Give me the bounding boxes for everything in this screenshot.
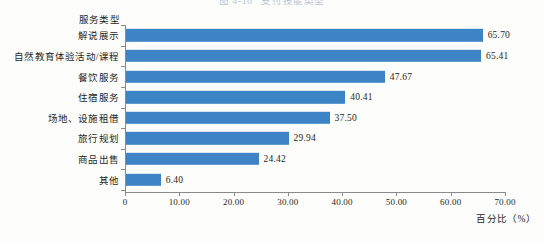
bar bbox=[126, 112, 330, 124]
bar-value-label: 65.70 bbox=[488, 30, 510, 40]
y-axis-tick bbox=[121, 169, 125, 170]
bar-value-label: 40.41 bbox=[350, 92, 372, 102]
bar-row: 住宿服务40.41 bbox=[125, 87, 505, 108]
category-label: 旅行规划 bbox=[78, 131, 119, 145]
bar-row: 旅行规划29.94 bbox=[125, 128, 505, 149]
x-axis-tick-label: 70.00 bbox=[494, 197, 515, 207]
bar bbox=[126, 91, 345, 103]
x-axis-tick-label: 30.00 bbox=[277, 197, 298, 207]
y-axis-tick bbox=[121, 25, 125, 26]
y-axis-tick bbox=[121, 108, 125, 109]
x-axis-tick bbox=[451, 192, 452, 196]
bar-row: 解说展示65.70 bbox=[125, 25, 505, 46]
x-axis-tick bbox=[234, 192, 235, 196]
y-axis-tick bbox=[121, 128, 125, 129]
x-axis-tick bbox=[288, 192, 289, 196]
bar-value-label: 24.42 bbox=[264, 154, 286, 164]
bar-row: 商品出售24.42 bbox=[125, 149, 505, 170]
bar-value-label: 29.94 bbox=[294, 133, 316, 143]
x-axis-tick-label: 0 bbox=[123, 197, 128, 207]
bar bbox=[126, 173, 161, 185]
x-axis-tick bbox=[396, 192, 397, 196]
bar bbox=[126, 132, 289, 144]
y-axis-tick bbox=[121, 87, 125, 88]
y-axis-label: 服务类型 bbox=[0, 12, 120, 26]
bar-row: 场地、设施租借37.50 bbox=[125, 108, 505, 129]
bar bbox=[126, 153, 259, 165]
bar-value-label: 6.40 bbox=[166, 175, 183, 185]
x-axis-tick bbox=[342, 192, 343, 196]
x-axis-tick-label: 20.00 bbox=[223, 197, 244, 207]
x-axis-tick bbox=[125, 192, 126, 196]
bar bbox=[126, 50, 481, 62]
x-axis-tick-label: 60.00 bbox=[440, 197, 461, 207]
y-axis-tick bbox=[121, 190, 125, 191]
bar bbox=[126, 29, 483, 41]
x-axis-line bbox=[125, 192, 506, 193]
y-axis-tick bbox=[121, 66, 125, 67]
plot-area: 解说展示65.70自然教育体验活动/课程65.41餐饮服务47.67住宿服务40… bbox=[125, 25, 505, 190]
bar-chart: 服务类型 解说展示65.70自然教育体验活动/课程65.41餐饮服务47.67住… bbox=[0, 0, 544, 243]
x-axis-tick-label: 10.00 bbox=[169, 197, 190, 207]
bar-value-label: 47.67 bbox=[390, 72, 412, 82]
bar-row: 自然教育体验活动/课程65.41 bbox=[125, 46, 505, 67]
bar bbox=[126, 70, 385, 82]
category-label: 住宿服务 bbox=[78, 90, 119, 104]
bar-row: 餐饮服务47.67 bbox=[125, 66, 505, 87]
category-label: 自然教育体验活动/课程 bbox=[14, 49, 119, 63]
bar-value-label: 65.41 bbox=[486, 51, 508, 61]
x-axis-title: 百分比（%） bbox=[0, 211, 536, 225]
category-label: 餐饮服务 bbox=[78, 70, 119, 84]
y-axis-tick bbox=[121, 46, 125, 47]
x-axis-tick-label: 40.00 bbox=[332, 197, 353, 207]
x-axis-tick bbox=[179, 192, 180, 196]
bar-value-label: 37.50 bbox=[335, 113, 357, 123]
category-label: 其他 bbox=[99, 173, 119, 187]
x-axis-tick-label: 50.00 bbox=[386, 197, 407, 207]
x-axis-tick bbox=[505, 192, 506, 196]
category-label: 商品出售 bbox=[78, 152, 119, 166]
y-axis-tick bbox=[121, 149, 125, 150]
category-label: 场地、设施租借 bbox=[48, 111, 119, 125]
category-label: 解说展示 bbox=[78, 28, 119, 42]
bar-row: 其他6.40 bbox=[125, 169, 505, 190]
